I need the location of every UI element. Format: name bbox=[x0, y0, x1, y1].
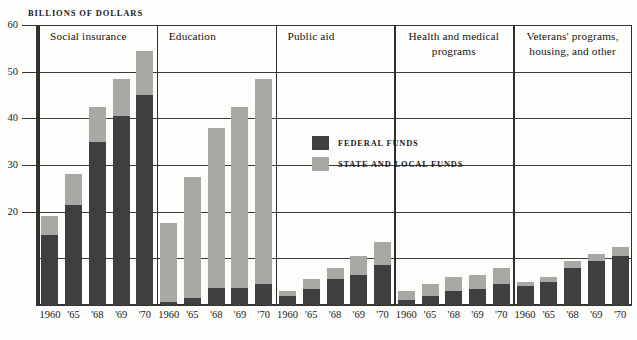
bar-segment-federal bbox=[184, 298, 201, 305]
x-tick-label: '69 bbox=[466, 309, 490, 320]
bar bbox=[398, 291, 415, 305]
bar-segment-federal bbox=[374, 265, 391, 305]
x-tick-label: '70 bbox=[133, 309, 157, 320]
bar bbox=[279, 291, 296, 305]
bar-segment-federal bbox=[208, 288, 225, 305]
x-tick-label: '70 bbox=[371, 309, 395, 320]
bar bbox=[588, 254, 605, 305]
y-tick-label: 30 bbox=[8, 158, 19, 171]
bar-segment-federal bbox=[113, 116, 130, 305]
panel-divider-0 bbox=[38, 25, 40, 305]
bar-segment-federal bbox=[231, 288, 248, 305]
chart-title: BILLIONS OF DOLLARS bbox=[28, 8, 143, 18]
x-tick-label: 1960 bbox=[513, 309, 537, 320]
bar-segment-federal bbox=[89, 142, 106, 305]
chart-figure: BILLIONS OF DOLLARS Social insuranceEduc… bbox=[0, 0, 637, 340]
x-tick-label: '69 bbox=[109, 309, 133, 320]
bar-segment-federal bbox=[493, 284, 510, 305]
bar bbox=[540, 277, 557, 305]
bar-segment-state-local bbox=[231, 107, 248, 289]
y-tick-label: 40 bbox=[8, 111, 19, 124]
bar bbox=[89, 107, 106, 305]
legend-swatch-federal bbox=[312, 136, 329, 150]
bar-segment-state-local bbox=[445, 277, 462, 291]
bar-segment-state-local bbox=[398, 291, 415, 300]
y-tick-mark bbox=[22, 165, 36, 166]
bar bbox=[208, 128, 225, 305]
bar bbox=[303, 279, 320, 305]
bar bbox=[255, 79, 272, 305]
x-tick-label: 1960 bbox=[276, 309, 300, 320]
bar bbox=[612, 247, 629, 305]
bar bbox=[231, 107, 248, 305]
x-tick-label: '69 bbox=[584, 309, 608, 320]
bar bbox=[493, 268, 510, 305]
bar-segment-federal bbox=[327, 279, 344, 305]
bar-segment-state-local bbox=[255, 79, 272, 284]
legend-swatch-state-local bbox=[312, 157, 329, 171]
y-tick-20: 20 bbox=[22, 212, 38, 213]
panel-title-2: Public aid bbox=[282, 29, 395, 44]
bar-segment-state-local bbox=[612, 247, 629, 256]
bar-segment-state-local bbox=[493, 268, 510, 284]
bar bbox=[564, 261, 581, 305]
bar-segment-federal bbox=[136, 95, 153, 305]
bar bbox=[184, 177, 201, 305]
bar-segment-state-local bbox=[160, 223, 177, 302]
x-tick-label: '68 bbox=[204, 309, 228, 320]
gridline-60 bbox=[38, 25, 632, 26]
bar-segment-state-local bbox=[469, 275, 486, 289]
bar-segment-state-local bbox=[184, 177, 201, 298]
bar-segment-state-local bbox=[588, 254, 605, 261]
bar bbox=[350, 256, 367, 305]
bar-segment-state-local bbox=[136, 51, 153, 95]
bar-segment-state-local bbox=[208, 128, 225, 289]
y-tick-30: 30 bbox=[22, 165, 38, 166]
x-tick-label: '70 bbox=[252, 309, 276, 320]
y-tick-60: 60 bbox=[22, 25, 38, 26]
legend-label: STATE AND LOCAL FUNDS bbox=[338, 160, 463, 169]
bar-segment-state-local bbox=[422, 284, 439, 296]
y-tick-label: 60 bbox=[8, 18, 19, 31]
x-tick-label: '69 bbox=[347, 309, 371, 320]
panel-divider-2 bbox=[276, 25, 278, 305]
x-tick-label: '65 bbox=[62, 309, 86, 320]
bar bbox=[136, 51, 153, 305]
bar-segment-state-local bbox=[89, 107, 106, 142]
x-tick-label: '69 bbox=[228, 309, 252, 320]
bar-segment-state-local bbox=[65, 174, 82, 204]
x-tick-label: '68 bbox=[442, 309, 466, 320]
bar-segment-state-local bbox=[564, 261, 581, 268]
chart-legend: FEDERAL FUNDSSTATE AND LOCAL FUNDS bbox=[312, 134, 463, 176]
bar-segment-state-local bbox=[374, 242, 391, 265]
x-tick-label: 1960 bbox=[157, 309, 181, 320]
bar bbox=[65, 174, 82, 305]
x-tick-label: 1960 bbox=[38, 309, 62, 320]
bar-segment-federal bbox=[65, 205, 82, 305]
y-tick-50: 50 bbox=[22, 72, 38, 73]
bar-segment-federal bbox=[517, 286, 534, 305]
bar-segment-federal bbox=[469, 289, 486, 305]
x-tick-label: '68 bbox=[323, 309, 347, 320]
y-tick-mark bbox=[22, 72, 36, 73]
x-tick-label: 1960 bbox=[394, 309, 418, 320]
bar-segment-federal bbox=[160, 302, 177, 305]
bar bbox=[445, 277, 462, 305]
bar-segment-state-local bbox=[303, 279, 320, 288]
x-tick-label: '68 bbox=[561, 309, 585, 320]
panel-divider-4 bbox=[513, 25, 515, 305]
legend-label: FEDERAL FUNDS bbox=[338, 139, 419, 148]
y-tick-mark bbox=[22, 118, 36, 119]
y-tick-mark bbox=[22, 25, 36, 26]
bar-segment-federal bbox=[41, 235, 58, 305]
x-tick-label: '68 bbox=[86, 309, 110, 320]
bar-segment-federal bbox=[564, 268, 581, 305]
bar bbox=[327, 268, 344, 305]
bar bbox=[113, 79, 130, 305]
bar-segment-state-local bbox=[350, 256, 367, 275]
bar-segment-state-local bbox=[327, 268, 344, 280]
bar-segment-federal bbox=[398, 300, 415, 305]
bar-segment-federal bbox=[350, 275, 367, 305]
gridline-50 bbox=[38, 72, 632, 73]
bar bbox=[469, 275, 486, 305]
